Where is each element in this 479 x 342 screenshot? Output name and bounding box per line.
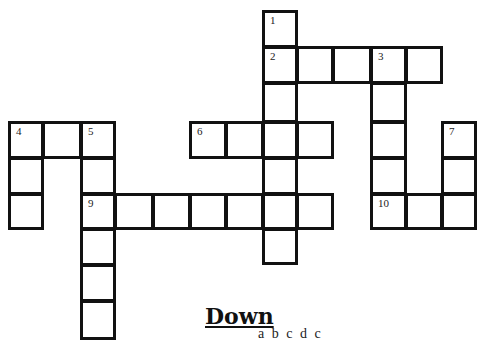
- clue-number: 2: [270, 51, 276, 62]
- crossword-cell-1[interactable]: 1: [262, 10, 298, 48]
- clue-number: 7: [449, 126, 455, 137]
- crossword-cell-7[interactable]: 7: [441, 121, 477, 159]
- down-clue-partial: a b c d c: [258, 326, 323, 342]
- crossword-cell[interactable]: [262, 82, 298, 123]
- crossword-cell[interactable]: [332, 46, 372, 84]
- crossword-cell[interactable]: [262, 157, 298, 195]
- crossword-cell[interactable]: [189, 193, 227, 230]
- crossword-cell[interactable]: [42, 121, 82, 159]
- crossword-cell[interactable]: [152, 193, 191, 230]
- crossword-cell[interactable]: [296, 121, 334, 159]
- crossword-cell[interactable]: [296, 193, 334, 230]
- crossword-cell[interactable]: [441, 193, 477, 230]
- clue-number: 10: [378, 198, 389, 209]
- crossword-cell-4[interactable]: 4: [8, 121, 44, 159]
- crossword-cell-6[interactable]: 6: [189, 121, 227, 159]
- clue-number: 6: [197, 126, 203, 137]
- clue-number: 4: [16, 126, 22, 137]
- clue-number: 3: [378, 51, 384, 62]
- crossword-cell[interactable]: [114, 193, 154, 230]
- crossword-cell[interactable]: [225, 121, 264, 159]
- crossword-cell[interactable]: [80, 264, 116, 302]
- clue-number: 9: [88, 198, 94, 209]
- crossword-cell[interactable]: [370, 157, 407, 195]
- crossword-cell[interactable]: [8, 193, 44, 230]
- crossword-cell[interactable]: [8, 157, 44, 195]
- crossword-cell[interactable]: [262, 193, 298, 230]
- crossword-cell[interactable]: [296, 46, 334, 84]
- crossword-cell[interactable]: [370, 82, 407, 123]
- crossword-cell[interactable]: [370, 121, 407, 159]
- crossword-cell-10[interactable]: 10: [370, 193, 407, 230]
- crossword-cell-2[interactable]: 2: [262, 46, 298, 84]
- clue-number: 5: [88, 126, 94, 137]
- crossword-cell[interactable]: [441, 157, 477, 195]
- crossword-cell[interactable]: [262, 121, 298, 159]
- crossword-cell[interactable]: [405, 46, 443, 84]
- crossword-cell[interactable]: [405, 193, 443, 230]
- crossword-cell-3[interactable]: 3: [370, 46, 407, 84]
- crossword-cell-5[interactable]: 5: [80, 121, 116, 159]
- crossword-cell-9[interactable]: 9: [80, 193, 116, 230]
- crossword-cell[interactable]: [80, 228, 116, 266]
- crossword-cell[interactable]: [80, 157, 116, 195]
- clue-number: 1: [270, 15, 276, 26]
- crossword-cell[interactable]: [225, 193, 264, 230]
- crossword-cell[interactable]: [262, 228, 298, 265]
- crossword-cell[interactable]: [80, 300, 116, 340]
